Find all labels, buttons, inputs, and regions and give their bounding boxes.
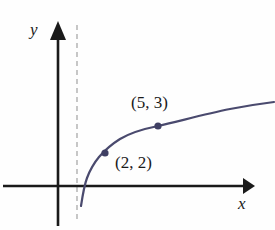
- data-point-label-2: (5, 3): [131, 94, 168, 111]
- data-point-marker: [101, 149, 108, 156]
- y-axis-label: y: [30, 21, 38, 38]
- x-axis-label: x: [238, 195, 246, 212]
- y-axis-arrowhead-icon: [50, 21, 66, 40]
- data-point-label-1: (2, 2): [115, 154, 152, 171]
- graph-figure: y x (2, 2) (5, 3): [0, 0, 275, 230]
- x-axis-arrowhead-icon: [243, 178, 255, 194]
- plot-canvas: [0, 0, 275, 230]
- data-point-marker: [154, 122, 161, 129]
